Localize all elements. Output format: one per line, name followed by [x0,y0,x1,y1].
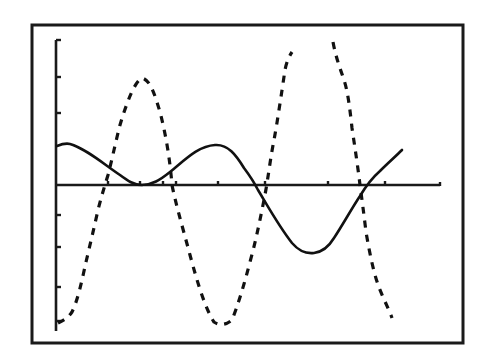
series-solid-line [57,144,402,254]
series-dashed-line-segment-2 [333,42,392,318]
line-chart [0,0,490,360]
